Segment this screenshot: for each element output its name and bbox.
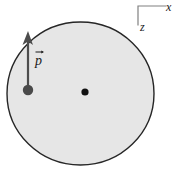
disk-center-dot (81, 88, 88, 95)
axis-label-z: z (140, 21, 145, 33)
physics-figure: x z p (0, 0, 180, 173)
dipole-symbol: p (35, 53, 42, 68)
axis-label-x: x (166, 1, 171, 13)
dipole-point-charge (23, 85, 33, 95)
vector-label-wrap: p (35, 54, 42, 68)
dipole-vector-label: p (35, 54, 42, 68)
figure-canvas (0, 0, 180, 173)
